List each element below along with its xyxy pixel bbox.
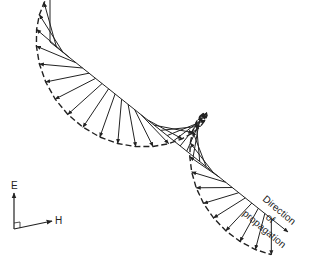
field-vector-arrow-icon (190, 143, 212, 172)
right-angle-mark-icon (14, 222, 20, 228)
em-wave-diagram: Direction of propagation E H (0, 0, 309, 266)
eh-reference-axes: E H (11, 180, 62, 229)
propagation-axis-arrow (50, 42, 288, 232)
field-vector-arrow-icon (39, 15, 63, 53)
e-axis-label: E (11, 180, 18, 191)
field-vector-arrow-icon (192, 172, 226, 182)
field-vector-arrow-icon (135, 110, 153, 147)
field-vector-arrow-icon (128, 104, 136, 146)
field-vector-arrow-icon (46, 73, 89, 82)
field-vector-arrow-icon (118, 99, 122, 143)
field-vector-arrow-icon (36, 46, 76, 63)
field-vector-arrow-icon (83, 89, 109, 127)
field-vectors (36, 0, 271, 255)
helix-envelope-dashed (36, 0, 271, 255)
field-vector-arrow-icon (55, 78, 95, 99)
propagation-label: Direction of propagation (241, 189, 304, 250)
field-vector-arrow-icon (68, 84, 102, 115)
field-vector-arrow-icon (100, 94, 115, 137)
field-vector-arrow-icon (39, 64, 82, 68)
field-vector-arrow-icon (204, 193, 239, 204)
h-axis-label: H (55, 215, 62, 226)
